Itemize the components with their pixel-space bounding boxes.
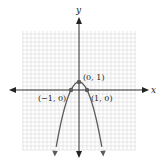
left-root-label: (−1, 0) <box>38 94 66 103</box>
left-root-point <box>69 88 73 92</box>
y-axis-label: y <box>75 5 82 15</box>
x-axis-label: x <box>151 85 156 95</box>
vertex-point <box>77 80 81 84</box>
curve-left-arrow-icon <box>52 150 58 156</box>
parabola-chart: y x (0, 1) (−1, 0) (1, 0) <box>0 0 163 160</box>
curve-right-arrow-icon <box>100 150 106 156</box>
x-axis-left-arrow-icon <box>9 87 16 93</box>
x-axis-right-arrow-icon <box>142 87 149 93</box>
vertex-label: (0, 1) <box>83 73 105 82</box>
y-axis-up-arrow-icon <box>76 17 82 24</box>
y-axis-down-arrow-icon <box>76 151 82 158</box>
right-root-point <box>85 88 89 92</box>
right-root-label: (1, 0) <box>91 94 113 103</box>
